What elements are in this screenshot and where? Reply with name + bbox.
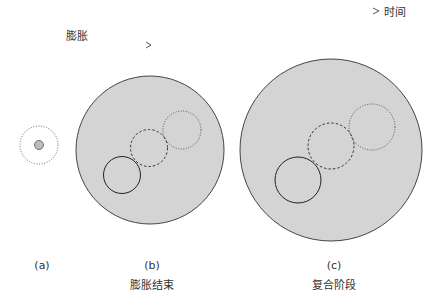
expansion-label: 膨胀	[66, 27, 88, 43]
panel-b-letter: (b)	[144, 259, 160, 272]
panel-c-caption: 复合阶段	[312, 276, 356, 292]
panel-b-diagram	[76, 76, 224, 224]
panel-a-letter: (a)	[34, 259, 49, 272]
diagram-canvas	[0, 0, 426, 297]
panel-c-letter: (c)	[327, 259, 342, 272]
panel-b-caption: 膨胀结束	[130, 276, 174, 292]
panel-a-diagram	[20, 126, 58, 164]
time-label: 时间	[384, 3, 406, 19]
panel-c-diagram	[240, 59, 422, 241]
time-arrow	[8, 8, 379, 14]
